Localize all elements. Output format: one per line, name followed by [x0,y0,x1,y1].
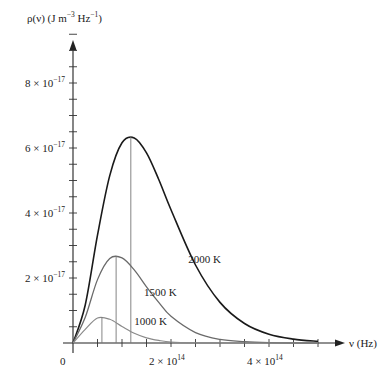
y-axis-arrow-icon [70,40,77,50]
curves [73,136,318,343]
curve-1500k [73,256,318,343]
y-tick-label: 2 × 10−17 [25,270,65,284]
series-label: 2000 K [188,253,221,265]
series-label: 1000 K [134,315,167,327]
y-tick-label: 8 × 10−17 [25,75,65,89]
x-axis-arrow-icon [335,340,345,347]
x-axis-label: ν (Hz) [349,337,377,350]
x-tick-label: 4 × 1014 [247,353,283,367]
y-tick-label: 6 × 10−17 [25,140,65,154]
labels: 2 × 10−174 × 10−176 × 10−178 × 10−172 × … [25,10,377,367]
y-axis-label: ρ(ν) (J m−3 Hz−1) [27,10,102,25]
x-tick-label: 2 × 1014 [149,353,185,367]
planck-radiation-chart: 2 × 10−174 × 10−176 × 10−178 × 10−172 × … [0,0,382,377]
curve-2000k [73,137,318,343]
origin-label: 0 [60,355,66,367]
y-tick-label: 4 × 10−17 [25,205,65,219]
series-label: 1500 K [144,286,177,298]
